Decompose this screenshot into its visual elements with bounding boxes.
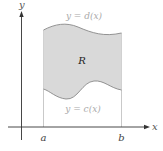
x-axis-arrow-icon	[144, 125, 150, 129]
bound-a-label: a	[41, 132, 47, 143]
bottom-curve-label: y = c(x)	[64, 104, 101, 114]
bound-b-label: b	[118, 132, 124, 143]
region-label: R	[77, 55, 86, 66]
y-axis-arrow-icon	[19, 11, 23, 17]
region-diagram: y x y = d(x) R y = c(x) a b	[0, 0, 163, 151]
top-curve-label: y = d(x)	[65, 11, 103, 21]
x-axis-label: x	[152, 121, 158, 132]
y-axis-label: y	[18, 0, 25, 10]
